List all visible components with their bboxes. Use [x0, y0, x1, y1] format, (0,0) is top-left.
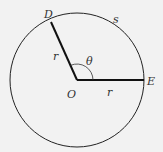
circle-diagram: D s r θ O r E: [0, 0, 163, 152]
label-s: s: [113, 13, 119, 26]
label-e: E: [146, 75, 155, 88]
label-theta: θ: [86, 55, 93, 68]
label-d: D: [43, 8, 53, 21]
label-r-oe: r: [107, 86, 113, 99]
label-r-od: r: [53, 50, 59, 63]
label-o: O: [67, 88, 76, 101]
